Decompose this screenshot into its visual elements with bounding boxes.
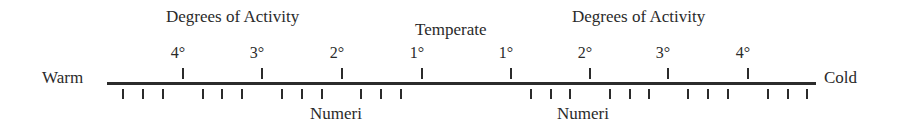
degree-label-right-4: 4°	[736, 44, 750, 62]
numeri-tick	[609, 89, 611, 99]
numeri-tick	[241, 89, 243, 99]
degree-tick	[421, 68, 423, 79]
numeri-tick	[400, 89, 402, 99]
numeri-tick	[767, 89, 769, 99]
numeri-tick	[569, 89, 571, 99]
degrees-of-activity-label-left: Degrees of Activity	[166, 7, 299, 27]
degree-label-left-2: 2°	[330, 44, 344, 62]
warm-label: Warm	[42, 68, 83, 88]
numeri-tick	[648, 89, 650, 99]
degree-tick	[510, 68, 512, 79]
degree-label-left-1: 1°	[410, 44, 424, 62]
degree-tick	[341, 68, 343, 79]
degree-label-right-3: 3°	[656, 44, 670, 62]
numeri-tick	[727, 89, 729, 99]
degree-tick	[667, 68, 669, 79]
numeri-tick	[687, 89, 689, 99]
scale-axis-line	[107, 82, 816, 85]
numeri-tick	[162, 89, 164, 99]
numeri-tick	[321, 89, 323, 99]
numeri-tick	[360, 89, 362, 99]
numeri-tick	[301, 89, 303, 99]
cold-label: Cold	[824, 68, 857, 88]
temperate-label: Temperate	[415, 20, 487, 40]
numeri-tick	[787, 89, 789, 99]
numeri-tick	[221, 89, 223, 99]
numeri-tick	[380, 89, 382, 99]
numeri-tick	[629, 89, 631, 99]
numeri-tick	[707, 89, 709, 99]
numeri-tick	[550, 89, 552, 99]
degrees-of-activity-label-right: Degrees of Activity	[572, 7, 705, 27]
degree-tick	[182, 68, 184, 79]
numeri-tick	[281, 89, 283, 99]
numeri-tick	[202, 89, 204, 99]
degree-tick	[589, 68, 591, 79]
numeri-tick	[122, 89, 124, 99]
degree-label-left-4: 4°	[171, 44, 185, 62]
numeri-tick	[806, 89, 808, 99]
numeri-label-left: Numeri	[310, 104, 362, 124]
degree-tick	[261, 68, 263, 79]
numeri-label-right: Numeri	[557, 104, 609, 124]
degree-tick	[747, 68, 749, 79]
numeri-tick	[530, 89, 532, 99]
numeri-tick	[142, 89, 144, 99]
degree-label-right-1: 1°	[499, 44, 513, 62]
degree-label-right-2: 2°	[578, 44, 592, 62]
degree-label-left-3: 3°	[250, 44, 264, 62]
